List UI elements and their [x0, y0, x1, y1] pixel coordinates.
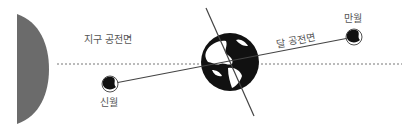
sun-shape: [17, 14, 49, 124]
full-moon-globe: [346, 29, 362, 45]
new-moon-globe: [102, 76, 118, 92]
earth-orbit-plane-label: 지구 공전면: [84, 35, 132, 45]
full-moon-label: 만월: [344, 14, 362, 24]
moon-phase-orbit-diagram: 지구 공전면 달 공전면 신월 만월: [0, 0, 418, 132]
new-moon-label: 신월: [100, 98, 118, 108]
